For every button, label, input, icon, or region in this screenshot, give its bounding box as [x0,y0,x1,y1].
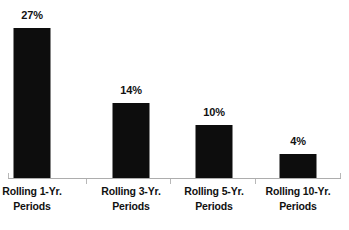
axis-tick-end [340,173,341,178]
category-label-line1: Rolling 3-Yr. [88,184,174,199]
category-label-rolling-1-yr: Rolling 1-Yr. Periods [0,184,75,214]
axis-tick-start [8,173,9,178]
category-label-line2: Periods [171,199,257,214]
bar-group-rolling-5-yr: 10% [174,0,254,178]
category-label-line2: Periods [88,199,174,214]
category-label-line2: Periods [0,199,75,214]
category-label-line1: Rolling 10-Yr. [255,184,341,199]
bar-value-label-3: 10% [203,106,225,119]
category-label-line2: Periods [255,199,341,214]
category-label-rolling-3-yr: Rolling 3-Yr. Periods [88,184,174,214]
bar-group-rolling-1-yr: 27% [0,0,72,178]
bar-value-label-1: 27% [21,9,43,22]
plot-area: 27% 14% 10% 4% [0,0,349,178]
bar-group-rolling-3-yr: 14% [91,0,171,178]
bar-rolling-1-yr[interactable] [14,28,51,178]
x-axis-baseline [8,178,341,179]
bar-chart: 27% 14% 10% 4% Rolling 1-Yr. Periods Rol… [0,0,349,230]
bar-value-label-4: 4% [290,135,306,148]
category-label-rolling-5-yr: Rolling 5-Yr. Periods [171,184,257,214]
category-label-row: Rolling 1-Yr. Periods Rolling 3-Yr. Peri… [0,184,349,230]
category-label-rolling-10-yr: Rolling 10-Yr. Periods [255,184,341,214]
bar-rolling-5-yr[interactable] [196,125,233,178]
bar-rolling-10-yr[interactable] [280,154,317,178]
category-label-line1: Rolling 5-Yr. [171,184,257,199]
bar-group-rolling-10-yr: 4% [258,0,338,178]
bar-rolling-3-yr[interactable] [113,103,150,178]
category-label-line1: Rolling 1-Yr. [0,184,75,199]
bar-value-label-2: 14% [120,84,142,97]
